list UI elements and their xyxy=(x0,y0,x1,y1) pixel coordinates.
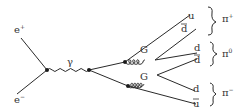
feynman-diagram: e+ e− γ G G u d d d d u π+ π0 π− xyxy=(0,0,242,112)
label-pi-minus-sup: − xyxy=(229,86,234,93)
label-quark-u: u xyxy=(188,10,195,21)
photon-line xyxy=(47,69,89,72)
label-photon: γ xyxy=(67,56,73,67)
label-quark-d-lower: d xyxy=(193,83,200,94)
electron-line xyxy=(17,70,47,94)
quark-dbar-middle-line xyxy=(157,59,197,75)
vertex-gamma-qq xyxy=(87,68,91,72)
label-electron-sup: − xyxy=(20,93,25,100)
svg-text:π0: π0 xyxy=(222,47,233,59)
positron-line xyxy=(21,38,47,70)
quark-d-lower-line xyxy=(157,75,195,91)
svg-text:e+: e+ xyxy=(14,23,25,35)
label-quark-ubar: u xyxy=(193,98,200,109)
vertex-gluon-upper xyxy=(123,60,127,64)
label-quark-dbar-upper: d xyxy=(181,23,188,34)
quark-ubar-line-a xyxy=(89,70,128,86)
quark-d-middle-line xyxy=(155,53,197,60)
label-quark-dbar-middle: d xyxy=(194,54,201,65)
label-pi-plus-sup: + xyxy=(229,12,234,19)
svg-text:π−: π− xyxy=(222,86,234,98)
vertex-gluon-lower xyxy=(126,84,130,88)
label-positron-sup: + xyxy=(20,23,25,30)
quark-dbar-upper-line xyxy=(155,29,196,60)
quark-u-line xyxy=(89,62,125,70)
vertex-ee-gamma xyxy=(45,68,49,72)
label-gluon-lower: G xyxy=(140,71,148,82)
brace-pi-minus xyxy=(210,83,216,106)
label-pi-zero-sup: 0 xyxy=(229,47,233,54)
brace-pi-plus xyxy=(208,7,216,35)
label-quark-d-middle: d xyxy=(194,42,201,53)
svg-text:e−: e− xyxy=(14,93,25,105)
brace-pi-zero xyxy=(210,42,217,66)
label-gluon-upper: G xyxy=(140,44,148,55)
quark-ubar-line-b xyxy=(128,86,196,104)
svg-text:π+: π+ xyxy=(222,12,234,24)
